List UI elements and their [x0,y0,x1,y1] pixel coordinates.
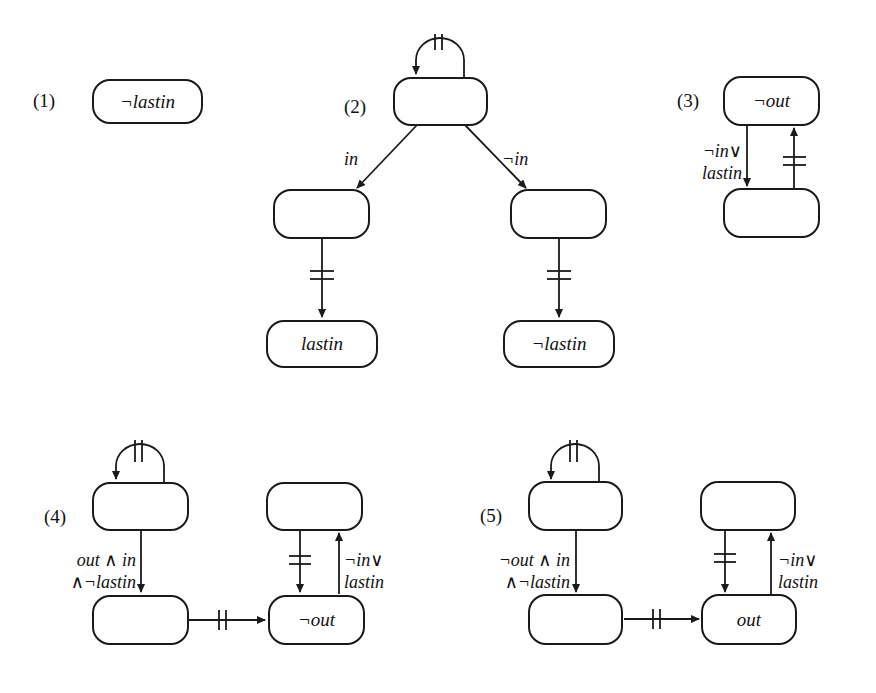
transition-label-3: ¬in∨ lastin [688,140,742,184]
transition-label-3-line2: lastin [688,162,742,184]
state-lastin: lastin [266,320,378,368]
return-5-line2: lastin [778,571,818,593]
state-4-top-right [266,482,363,531]
state-5-top-left [528,481,623,531]
self-loop-4 [116,444,164,482]
guard-5-line2: ∧¬lastin [470,571,570,593]
state-not-out-4: ¬out [268,595,365,645]
state-3-bottom [723,188,820,238]
guard-5-line1: ¬out ∧ in [470,549,570,571]
state-out-5: out [701,594,797,645]
transition-label-4-return: ¬in∨ lastin [344,549,384,593]
state-2-left [273,189,370,239]
self-loop-5 [551,444,599,482]
state-2-right [510,189,607,239]
state-2-top [393,77,488,126]
state-not-out-3: ¬out [723,76,820,126]
edge-in [357,125,417,188]
diagram-label-4: (4) [44,506,66,528]
return-4-line2: lastin [344,571,384,593]
diagram-label-3: (3) [677,90,699,112]
guard-4-line1: out ∧ in [40,549,136,571]
diagram-label-5: (5) [480,505,502,527]
state-5-top-right [700,481,796,531]
state-4-top-left [92,482,189,531]
self-loop-2 [416,38,464,78]
return-5-line1: ¬in∨ [778,549,818,571]
transition-label-in: in [344,148,358,170]
transition-label-5-return: ¬in∨ lastin [778,549,818,593]
transition-label-5-guard: ¬out ∧ in ∧¬lastin [470,549,570,593]
diagram-label-1: (1) [33,90,55,112]
transition-label-3-line1: ¬in∨ [688,140,742,162]
return-4-line1: ¬in∨ [344,549,384,571]
state-not-lastin-1: ¬lastin [92,79,203,124]
state-not-lastin-2: ¬lastin [503,320,615,368]
transition-label-4-guard: out ∧ in ∧¬lastin [40,549,136,593]
state-5-bottom-left [528,594,623,645]
state-4-bottom-left [92,595,189,645]
guard-4-line2: ∧¬lastin [40,571,136,593]
transition-label-not-in: ¬in [502,148,528,170]
diagram-label-2: (2) [344,96,366,118]
